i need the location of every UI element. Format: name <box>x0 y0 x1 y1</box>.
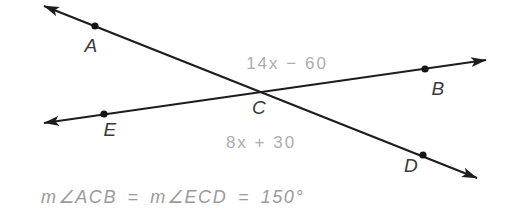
angle-ACB-expression: 14x − 60 <box>246 54 328 73</box>
point-B-label: B <box>431 78 444 99</box>
point-D-label: D <box>404 155 418 176</box>
point-E-label: E <box>103 119 116 140</box>
angle-measure-equation: m∠ACB = m∠ECD = 150° <box>41 186 304 208</box>
point-D-dot <box>419 151 426 158</box>
point-B-dot <box>421 65 428 72</box>
point-A-label: A <box>83 35 97 56</box>
intersecting-lines-diagram: ABCDE 14x − 608x + 30 <box>0 0 514 213</box>
angle-ECD-expression: 8x + 30 <box>226 133 296 152</box>
geometry-figure: ABCDE 14x − 608x + 30 m∠ACB = m∠ECD = 15… <box>0 0 514 213</box>
point-C-label: C <box>252 97 266 118</box>
point-A-dot <box>91 22 98 29</box>
point-E-dot <box>100 110 107 117</box>
